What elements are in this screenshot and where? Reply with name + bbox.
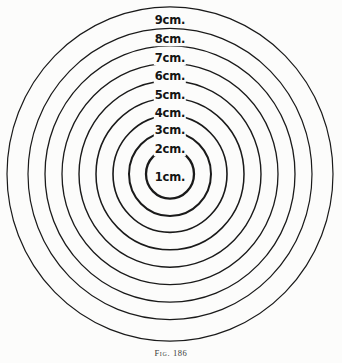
ring-label-2: 2cm. [154, 144, 186, 156]
figure-page: 1cm.2cm.3cm.4cm.5cm.6cm.7cm.8cm.9cm. Fig… [0, 0, 342, 363]
ring-label-9: 9cm. [154, 15, 186, 27]
ring-label-6: 6cm. [154, 71, 186, 83]
figure-caption-number: 186 [173, 348, 188, 358]
ring-label-1: 1cm. [154, 172, 186, 184]
figure-caption: Fig. 186 [0, 348, 342, 358]
ring-label-8: 8cm. [154, 34, 186, 46]
ring-label-4: 4cm. [154, 108, 186, 120]
ring-label-7: 7cm. [154, 53, 186, 65]
ring-label-5: 5cm. [154, 90, 186, 102]
figure-caption-prefix: Fig. [155, 348, 171, 358]
ring-label-3: 3cm. [154, 125, 186, 137]
